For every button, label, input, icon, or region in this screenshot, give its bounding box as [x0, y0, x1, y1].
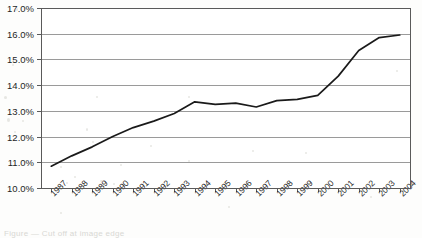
y-axis-tick-labels: 17.0%16.0%15.0%14.0%13.0%12.0%11.0%10.0% — [7, 3, 34, 194]
y-axis-tick-label: 12.0% — [7, 132, 34, 143]
clipped-caption: Figure — Cut off at image edge — [4, 229, 204, 238]
y-axis-tick-label: 16.0% — [7, 29, 34, 40]
y-axis-tick-label: 10.0% — [7, 183, 34, 194]
y-axis-tick-label: 11.0% — [8, 157, 35, 168]
y-axis-ticks — [37, 9, 41, 189]
chart-figure: 17.0%16.0%15.0%14.0%13.0%12.0%11.0%10.0%… — [0, 0, 422, 238]
y-axis-tick-label: 17.0% — [7, 3, 34, 14]
line-chart-svg: 17.0%16.0%15.0%14.0%13.0%12.0%11.0%10.0%… — [0, 0, 422, 238]
y-axis-tick-label: 15.0% — [7, 54, 34, 65]
y-axis-tick-label: 14.0% — [7, 80, 34, 91]
y-axis-tick-label: 13.0% — [7, 106, 34, 117]
